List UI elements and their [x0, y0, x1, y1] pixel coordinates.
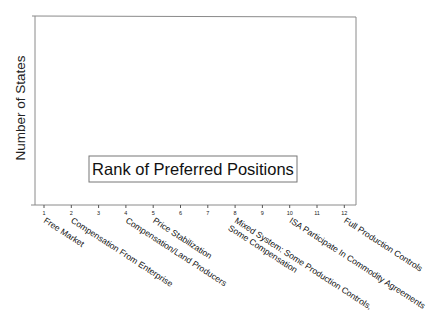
x-axis-ticks: 123456789101112 [42, 205, 347, 216]
x-tick-label: 8 [234, 210, 237, 216]
x-tick-label: 12 [341, 210, 347, 216]
x-tick-label: 9 [261, 210, 264, 216]
y-axis-label: Number of States [13, 55, 28, 160]
annotation-text: Rank of Preferred Positions [92, 160, 294, 178]
x-tick-label: 11 [314, 210, 320, 216]
annotation-box: Rank of Preferred Positions [89, 156, 297, 182]
x-axis-category-labels: Free MarketCompensation From EnterpriseC… [42, 215, 427, 311]
x-tick-label: 2 [70, 210, 73, 216]
plot-top-border [32, 16, 356, 17]
x-tick-label: 1 [42, 210, 45, 216]
chart: Number of States Rank of Preferred Posit… [0, 0, 431, 330]
x-tick-label: 6 [179, 210, 182, 216]
x-tick-label: 5 [152, 210, 155, 216]
x-tick-label: 4 [124, 210, 127, 216]
x-tick-label: 3 [97, 210, 100, 216]
x-tick-label: 7 [206, 210, 209, 216]
x-tick-label: 10 [287, 210, 293, 216]
